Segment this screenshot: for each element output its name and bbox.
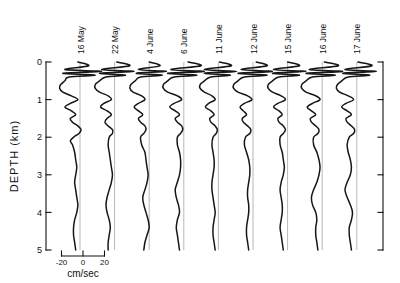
column-label: 15 June <box>283 23 293 54</box>
column-label: 11 June <box>214 24 224 54</box>
column-label: 12 June <box>249 23 259 54</box>
depth-tick-label: 0 <box>37 57 42 67</box>
column-label: 22 May <box>110 25 120 54</box>
depth-tick-label: 3 <box>37 170 42 180</box>
column-label: 6 June <box>179 28 189 54</box>
date-column-labels: 16 May22 May4 June6 June11 June12 June15… <box>76 23 363 54</box>
scale-bar-tick-label: -20 <box>56 258 68 267</box>
scale-bar-tick-label: 0 <box>81 258 86 267</box>
column-label: 4 June <box>145 28 155 54</box>
column-label: 17 June <box>352 23 362 54</box>
chart-background <box>0 0 400 283</box>
depth-axis-title-text: DEPTH (km) <box>8 120 20 192</box>
depth-tick-label: 4 <box>37 208 42 218</box>
depth-axis-title: DEPTH (km) <box>8 120 20 192</box>
scale-unit-label: cm/sec <box>67 268 99 279</box>
column-label: 16 May <box>76 25 86 54</box>
scale-bar-tick-label: 20 <box>100 258 109 267</box>
depth-tick-label: 5 <box>37 245 42 255</box>
column-label: 16 June <box>318 23 328 54</box>
depth-tick-label: 2 <box>37 132 42 142</box>
profile-chart-svg: 012345 16 May22 May4 June6 June11 June12… <box>0 0 400 283</box>
depth-tick-label: 1 <box>37 95 42 105</box>
velocity-profile-figure: 012345 16 May22 May4 June6 June11 June12… <box>0 0 400 283</box>
